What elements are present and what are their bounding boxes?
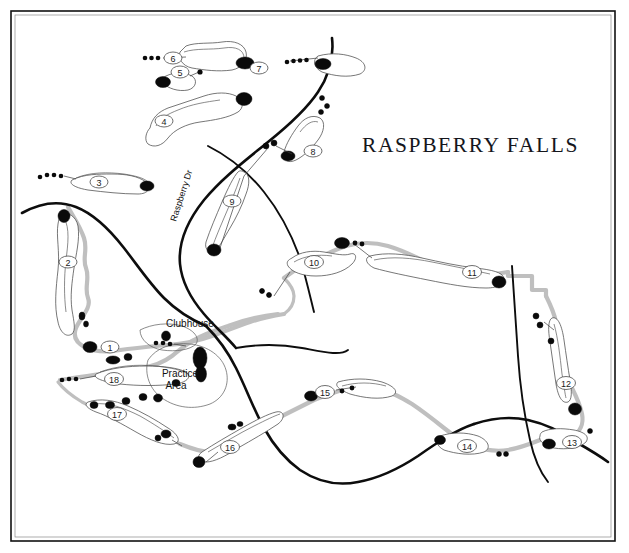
bunker-2b [84,321,89,327]
bunker-9b [271,140,277,146]
bunker-12-upper [533,313,539,319]
green-4 [236,93,252,106]
practice-bunker-2 [154,394,163,402]
bunker-road-b [325,104,330,109]
road-mid-east [236,345,348,353]
hole-marker-2[interactable]: 2 [59,256,77,268]
bunker-16b [237,422,243,427]
golf-course-map: 123456789101112131415161718 RASPBERRY FA… [0,0,629,553]
hole-number-17: 17 [112,410,122,420]
cart-path-hole10-loop [284,278,294,314]
fairway-11 [367,254,505,288]
fairway-2 [56,214,79,336]
practice-area-label-line2: Area [165,380,187,391]
green-10 [335,238,350,249]
green-12 [569,403,582,415]
green-1 [83,342,97,353]
hole-marker-13[interactable]: 13 [563,436,582,449]
green-13 [543,439,556,449]
road-raspberry-dr [180,38,333,348]
hole-number-8: 8 [310,147,315,157]
map-canvas: 123456789101112131415161718 RASPBERRY FA… [0,0,629,553]
bunker-12-mid [537,322,543,328]
practice-area-label-line1: Practice [162,368,199,379]
hole-number-16: 16 [225,443,235,453]
bunker-18b [124,354,132,361]
hole-number-11: 11 [467,268,476,278]
bunker-17 [155,435,161,441]
green-17 [161,430,171,438]
hole-marker-16[interactable]: 16 [221,441,240,454]
hole-marker-15[interactable]: 15 [316,386,335,399]
clubhouse-label: Clubhouse [166,318,214,329]
green-7 [315,59,331,70]
green-3 [140,181,154,191]
road-west-branch [22,203,206,326]
hole-number-14: 14 [462,442,472,452]
hole-marker-17[interactable]: 17 [108,408,127,421]
practice-bunker-5 [106,402,115,409]
hole-marker-9[interactable]: 9 [223,195,241,207]
green-14 [435,436,446,445]
bunker-12 [548,338,554,344]
bunker-2a [79,312,85,320]
green-11 [492,276,506,288]
hole-number-4: 4 [161,117,166,127]
hole-number-3: 3 [96,178,101,188]
practice-bunker-4 [122,398,130,405]
hole-marker-10[interactable]: 10 [305,256,324,269]
hole-marker-11[interactable]: 11 [463,266,482,279]
hole-marker-5[interactable]: 5 [171,66,189,78]
bunker-road-c [319,110,324,115]
hole-marker-6[interactable]: 6 [164,52,182,64]
road-name-label: Raspberry Dr [168,169,194,223]
fairway-6 [180,41,247,70]
hole-marker-12[interactable]: 12 [557,377,576,390]
hole-number-2: 2 [65,258,70,268]
hole-marker-8[interactable]: 8 [304,145,322,157]
hole-number-15: 15 [320,388,330,398]
clubhouse-building [162,331,171,341]
bunker-16 [228,424,236,430]
tee-group-3 [38,173,76,180]
green-2 [58,210,70,223]
tee-group-7 [285,58,318,65]
hole-number-12: 12 [561,379,571,389]
hole-number-18: 18 [109,375,119,385]
map-title: RASPBERRY FALLS [362,133,579,157]
hole-marker-4[interactable]: 4 [155,115,173,127]
tee-group-5 [190,69,203,76]
practice-bunker-3 [139,394,147,401]
hole-marker-3[interactable]: 3 [90,176,108,188]
bunker-road-a [320,96,325,101]
practice-bunker-6 [90,402,98,409]
bunker-14-tee [497,452,502,457]
hole-number-5: 5 [177,68,182,78]
green-9 [207,244,221,256]
green-5 [156,77,171,88]
hole-number-13: 13 [567,438,577,448]
hole-marker-1[interactable]: 1 [101,341,119,353]
road-south-loop [206,326,474,484]
hole-number-9: 9 [229,197,234,207]
hole-number-1: 1 [107,343,112,353]
bunker-18a [106,356,120,364]
hole-marker-14[interactable]: 14 [458,440,477,453]
green-8 [281,151,295,161]
hole-number-7: 7 [256,64,261,74]
hole-marker-7[interactable]: 7 [250,62,268,74]
practice-green-1 [193,347,207,369]
bunker-13-tee [588,429,593,434]
bunker-14-tee-b [504,452,509,457]
hole-marker-18[interactable]: 18 [105,373,124,386]
hole-number-10: 10 [309,258,319,268]
hole-number-6: 6 [170,54,175,64]
